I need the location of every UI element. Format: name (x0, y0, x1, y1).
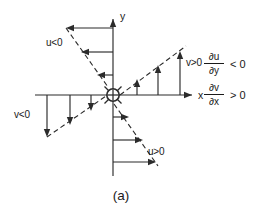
y-axis-label: y (120, 10, 126, 22)
annotation-du-dy-relation: < 0 (230, 58, 246, 70)
quadrant-upper-left-vectors (66, 25, 113, 87)
annotation-du-dy-numerator: ∂u (209, 51, 220, 62)
flow-arrowhead-u-neg-2 (81, 49, 89, 55)
quadrant-upper-right-vectors (120, 46, 186, 95)
flow-arrowhead-v-pos-3 (177, 51, 183, 59)
origin-marker (105, 87, 122, 104)
figure-caption: (a) (113, 188, 130, 203)
flow-label-upper-right: v>0 (186, 57, 202, 68)
annotation-dv-dx: ∂v ∂x > 0 (204, 82, 246, 107)
flow-label-lower-left: v<0 (14, 109, 30, 120)
envelope-upper-right (120, 46, 186, 95)
flow-label-upper-left: u<0 (46, 37, 63, 48)
envelope-upper-left (66, 28, 108, 87)
annotation-du-dy: ∂u ∂y < 0 (204, 51, 246, 76)
quadrant-lower-left-vectors (44, 95, 106, 137)
envelope-lower-left (47, 96, 106, 137)
annotation-dv-dx-relation: > 0 (230, 89, 246, 101)
y-axis-arrowhead (110, 19, 116, 27)
vector-field-diagram: y x u<0 v<0 v>0 u>0 ∂u ∂y < 0 ∂v ∂x > 0 … (0, 0, 276, 209)
annotation-dv-dx-denominator: ∂x (209, 96, 219, 107)
flow-arrowhead-u-pos-3 (148, 159, 156, 165)
x-axis-label: x (198, 89, 204, 101)
flow-label-lower-right: u>0 (148, 146, 165, 157)
figure-container: y x u<0 v<0 v>0 u>0 ∂u ∂y < 0 ∂v ∂x > 0 … (0, 0, 276, 209)
annotation-du-dy-denominator: ∂y (209, 65, 219, 76)
x-axis-arrowhead (184, 92, 192, 98)
annotation-dv-dx-numerator: ∂v (209, 82, 219, 93)
